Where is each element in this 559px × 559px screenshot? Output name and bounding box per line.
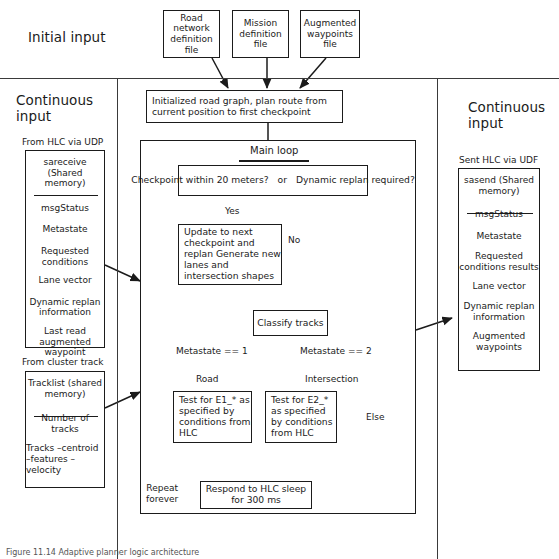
left-cluster-header: From cluster track bbox=[22, 357, 104, 368]
sareceive-item-lane-vector: Lane vector bbox=[38, 275, 91, 286]
node-label: Classify tracks bbox=[257, 318, 323, 329]
node-label: Mission definition file bbox=[233, 18, 288, 50]
decision-right-condition: Dynamic replan required? bbox=[296, 175, 415, 186]
sareceive-item-last-read-waypoint: Last read augmented waypoint bbox=[26, 326, 104, 358]
sasend-item-dynamic-replan: Dynamic replan information bbox=[459, 301, 539, 322]
edge-label-repeat-forever: Repeat forever bbox=[146, 483, 178, 505]
sasend-title-rule bbox=[467, 213, 533, 214]
box-sareceive-shared-memory: sareceive (Shared memory) msgStatus Meta… bbox=[25, 150, 105, 348]
node-augmented-waypoints-file: Augmented waypoints file bbox=[300, 10, 360, 58]
edge-label-metastate-2: Metastate == 2 bbox=[300, 346, 372, 357]
sasend-title: sasend (Shared memory) bbox=[459, 175, 539, 196]
right-udf-header: Sent HLC via UDF bbox=[459, 155, 538, 166]
tracklist-item-tracks: Tracks –centroid –features –velocity bbox=[26, 443, 104, 475]
node-classify-tracks: Classify tracks bbox=[253, 310, 328, 336]
node-label: Augmented waypoints file bbox=[301, 18, 359, 50]
edge-roadfile-to-init bbox=[212, 58, 228, 88]
node-label: Initialized road graph, plan route from … bbox=[152, 96, 342, 118]
edge-label-else: Else bbox=[366, 412, 384, 423]
edge-label-metastate-1: Metastate == 1 bbox=[176, 346, 248, 357]
node-decision-checkpoint-or-replan: Checkpoint within 20 meters? or Dynamic … bbox=[178, 165, 368, 196]
edge-label-road: Road bbox=[196, 374, 219, 385]
decision-connector-or: or bbox=[278, 175, 287, 186]
sareceive-item-requested-conditions: Requested conditions bbox=[26, 246, 104, 267]
sasend-item-msgstatus: msgStatus bbox=[475, 209, 523, 220]
node-label: Road network definition file bbox=[164, 13, 219, 55]
edge-label-no: No bbox=[288, 235, 300, 246]
node-label: Test for E2_* as specified by conditions… bbox=[271, 395, 336, 438]
figure-caption: Figure 11.14 Adaptive planner logic arch… bbox=[6, 548, 199, 558]
node-road-network-definition-file: Road network definition file bbox=[163, 10, 220, 58]
node-test-for-e1: Test for E1_* as specified by conditions… bbox=[173, 391, 252, 443]
node-test-for-e2: Test for E2_* as specified by conditions… bbox=[265, 391, 337, 443]
main-loop-label: Main loop bbox=[250, 145, 298, 157]
sasend-item-requested-conditions-results: Requested conditions results bbox=[459, 251, 539, 272]
sareceive-item-msgstatus: msgStatus bbox=[41, 203, 89, 214]
node-initialized-road-graph: Initialized road graph, plan route from … bbox=[146, 90, 343, 123]
node-label: Respond to HLC sleep for 300 ms bbox=[201, 484, 311, 506]
continuous-input-right-label: Continuous input bbox=[468, 99, 545, 131]
node-respond-to-hlc: Respond to HLC sleep for 300 ms bbox=[200, 481, 312, 509]
decision-left-condition: Checkpoint within 20 meters? bbox=[131, 175, 268, 186]
node-label: Test for E1_* as specified by conditions… bbox=[179, 395, 251, 438]
main-loop-label-rule bbox=[239, 160, 309, 162]
node-mission-definition-file: Mission definition file bbox=[232, 10, 289, 58]
edge-mainloop-to-sasend bbox=[416, 318, 452, 330]
sareceive-title: sareceive (Shared memory) bbox=[26, 157, 104, 189]
box-tracklist-shared-memory: Tracklist (shared memory) Number of trac… bbox=[25, 371, 105, 488]
sasend-item-metastate: Metastate bbox=[476, 231, 521, 242]
edge-label-yes: Yes bbox=[225, 206, 240, 217]
sasend-item-lane-vector: Lane vector bbox=[472, 281, 525, 292]
node-label: Update to next checkpoint and replan Gen… bbox=[184, 227, 281, 281]
edge-waypointsfile-to-init bbox=[300, 58, 326, 88]
edge-tracklist-to-mainloop bbox=[105, 392, 140, 408]
continuous-input-left-label: Continuous input bbox=[16, 92, 93, 124]
tracklist-title-rule bbox=[34, 416, 98, 417]
tracklist-title: Tracklist (shared memory) bbox=[26, 378, 104, 399]
sasend-item-augmented-waypoints: Augmented waypoints bbox=[459, 331, 539, 352]
sareceive-item-metastate: Metastate bbox=[42, 224, 87, 235]
edge-sareceive-to-mainloop bbox=[105, 265, 140, 281]
edge-label-intersection: Intersection bbox=[305, 374, 359, 385]
sareceive-title-rule bbox=[34, 195, 98, 196]
sareceive-item-dynamic-replan: Dynamic replan information bbox=[26, 297, 104, 318]
divider-horizontal-top bbox=[0, 78, 559, 79]
initial-input-label: Initial input bbox=[28, 29, 106, 45]
divider-vertical-left bbox=[117, 78, 118, 559]
box-sasend-shared-memory: sasend (Shared memory) msgStatus Metasta… bbox=[458, 168, 540, 371]
node-update-to-next-checkpoint: Update to next checkpoint and replan Gen… bbox=[178, 224, 282, 285]
left-udp-header: From HLC via UDP bbox=[22, 137, 103, 148]
figure-canvas: Initial input Continuous input Continuou… bbox=[0, 0, 559, 559]
divider-vertical-right bbox=[437, 78, 438, 559]
